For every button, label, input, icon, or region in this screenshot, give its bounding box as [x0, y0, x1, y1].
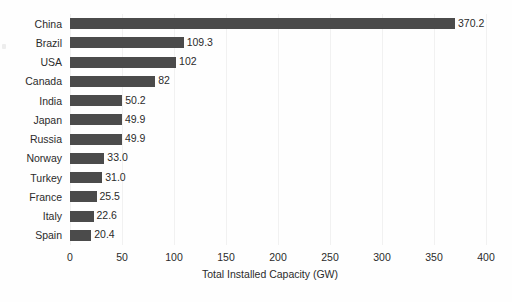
bar-value-label: 25.5: [100, 189, 120, 203]
bar: [70, 76, 155, 87]
y-axis-label-russia: Russia: [0, 132, 66, 146]
bar-value-label: 370.2: [458, 16, 484, 30]
bar: [70, 211, 94, 222]
bar-value-label: 31.0: [105, 170, 125, 184]
bar-row: 22.6: [70, 207, 486, 226]
x-tick-label: 0: [67, 250, 73, 264]
bar-value-label: 49.9: [125, 131, 145, 145]
bar: [70, 230, 91, 241]
bar-value-label: 49.9: [125, 112, 145, 126]
bar-row: 20.4: [70, 226, 486, 245]
y-axis-label-france: France: [0, 190, 66, 204]
bar-row: 31.0: [70, 168, 486, 187]
x-tick-label: 50: [116, 250, 128, 264]
bar-value-label: 109.3: [187, 35, 213, 49]
y-axis-label-china: China: [0, 17, 66, 31]
bar: [70, 172, 102, 183]
bar-value-label: 22.6: [97, 208, 117, 222]
bar-value-label: 33.0: [107, 150, 127, 164]
x-tick-label: 100: [165, 250, 183, 264]
y-axis-label-india: India: [0, 94, 66, 108]
bar: [70, 191, 97, 202]
y-axis-category-labels: ChinaBrazilUSACanadaIndiaJapanRussiaNorw…: [0, 14, 66, 245]
bar-value-label: 102: [179, 54, 197, 68]
y-axis-label-usa: USA: [0, 55, 66, 69]
bar-row: 109.3: [70, 33, 486, 52]
bar-row: 50.2: [70, 91, 486, 110]
y-axis-label-turkey: Turkey: [0, 171, 66, 185]
bar-row: 33.0: [70, 149, 486, 168]
bar-value-label: 82: [158, 73, 170, 87]
x-axis-title: Total Installed Capacity (GW): [0, 268, 512, 280]
x-axis-title-text: Total Installed Capacity (GW): [202, 268, 338, 280]
x-tick-label: 250: [321, 250, 339, 264]
bar-row: 102: [70, 53, 486, 72]
y-axis-label-canada: Canada: [0, 74, 66, 88]
y-axis-label-italy: Italy: [0, 209, 66, 223]
bar-chart-figure: ChinaBrazilUSACanadaIndiaJapanRussiaNorw…: [0, 0, 512, 302]
bar: [70, 134, 122, 145]
bar-row: 370.2: [70, 14, 486, 33]
y-axis-label-spain: Spain: [0, 228, 66, 242]
bar: [70, 114, 122, 125]
x-tick-label: 150: [217, 250, 235, 264]
x-tick-label: 350: [425, 250, 443, 264]
bar-row: 49.9: [70, 130, 486, 149]
y-axis-label-norway: Norway: [0, 151, 66, 165]
bar-row: 49.9: [70, 110, 486, 129]
bar-row: 25.5: [70, 187, 486, 206]
x-tick-label: 200: [269, 250, 287, 264]
bar-row: 82: [70, 72, 486, 91]
x-tick-label: 400: [477, 250, 495, 264]
bar: [70, 37, 184, 48]
y-axis-label-brazil: Brazil: [0, 36, 66, 50]
plot-area: 370.2109.31028250.249.949.933.031.025.52…: [70, 14, 486, 245]
bar: [70, 95, 122, 106]
bar-value-label: 50.2: [125, 93, 145, 107]
bar-value-label: 20.4: [94, 227, 114, 241]
y-axis-label-japan: Japan: [0, 113, 66, 127]
bar: [70, 153, 104, 164]
x-tick-label: 300: [373, 250, 391, 264]
bar: [70, 57, 176, 68]
x-axis-tick-labels: 050100150200250300350400: [0, 250, 512, 266]
bar: [70, 18, 455, 29]
gridline: [486, 14, 487, 245]
